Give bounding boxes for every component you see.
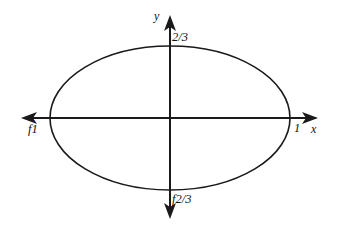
y-intercept-negative-label: f2/3 <box>172 193 191 206</box>
y-intercept-positive-label: 2/3 <box>172 31 188 44</box>
y-axis-label: y <box>154 10 159 22</box>
x-intercept-negative-label: f1 <box>28 123 38 136</box>
ellipse-figure: y x 2/3 f2/3 f1 1 <box>0 0 339 235</box>
x-axis-label: x <box>311 123 316 135</box>
figure-canvas <box>0 0 339 235</box>
x-intercept-positive-label: 1 <box>294 122 300 135</box>
